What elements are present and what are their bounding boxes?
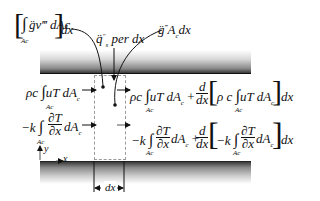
conduction-out-inner-k: −k ∫ xyxy=(216,131,238,149)
convection-out-label: ρc ∫uT dAc + xyxy=(130,87,195,107)
conduction-out-inner-fraction: ∂T∂x xyxy=(241,125,255,150)
convection-out-derivative: ddx xyxy=(196,81,208,106)
conduction-out-inner-dA: dAc xyxy=(256,131,274,149)
convection-out-inner: ρ c ∫uT dAc xyxy=(217,87,274,107)
axis-y-label: y xyxy=(44,143,48,154)
conduction-out-inner-subscript: Ac xyxy=(233,149,240,157)
conduction-out-fraction: ∂T∂x xyxy=(156,125,170,150)
axis-x-label: x xyxy=(63,153,67,164)
conduction-out-subscript: Ac xyxy=(146,149,153,157)
convection-out-dx: dx xyxy=(281,89,293,105)
integral-subscript: Ac xyxy=(21,37,28,45)
volumetric-generation-dx: dx xyxy=(61,22,73,38)
dx-width-label: dx xyxy=(104,181,116,193)
convection-out-inner-subscript: Ac xyxy=(235,106,242,114)
conduction-in-dA: dAc xyxy=(64,119,82,137)
total-generation-label: g̈‴Acdx xyxy=(158,22,191,40)
surface-flux-label: q̈″s per dx xyxy=(96,31,144,49)
convection-in-label: ρc ∫uT dAc xyxy=(26,83,80,103)
conduction-out-dx: dx xyxy=(281,132,293,148)
conduction-out-derivative: ddx xyxy=(196,125,208,150)
conduction-out-label: −k ∫ xyxy=(131,131,153,149)
conduction-in-fraction: ∂T∂x xyxy=(48,112,62,137)
conduction-out-dA: dAc + xyxy=(171,131,199,149)
integral-sign: ∫ xyxy=(22,14,27,34)
convection-out-subscript: Ac xyxy=(146,106,153,114)
conduction-in-label: −k ∫ xyxy=(21,118,43,136)
